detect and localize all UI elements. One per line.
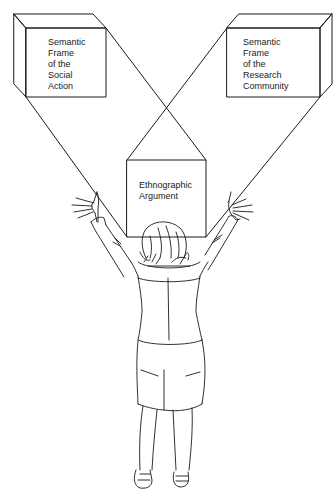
label-semantic-frame-social-action: Semantic Frame of the Social Action — [48, 37, 86, 92]
label-semantic-frame-research-community: Semantic Frame of the Research Community — [243, 37, 289, 92]
person-figure — [72, 192, 253, 488]
label-ethnographic-argument: Ethnographic Argument — [139, 180, 192, 202]
